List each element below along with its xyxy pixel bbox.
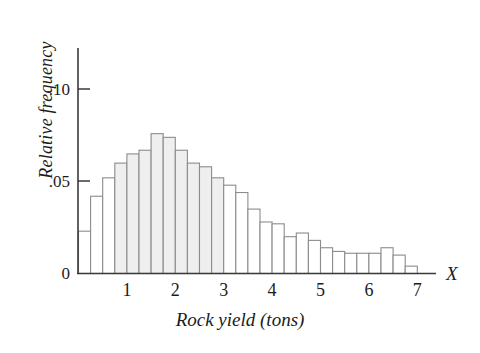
x-tick-label: 6: [349, 281, 389, 299]
x-axis-title: Rock yield (tons): [0, 310, 480, 329]
histogram-bar: [296, 233, 308, 273]
histogram-bar: [405, 266, 417, 273]
histogram-bar: [103, 178, 115, 274]
y-tick-label-010: .10: [32, 81, 70, 98]
histogram-bar: [139, 150, 151, 273]
histogram-bar: [308, 240, 320, 273]
x-tick-label: 3: [204, 281, 244, 299]
histogram-bar: [79, 231, 91, 273]
histogram-bar: [321, 248, 333, 274]
histogram-plot: [0, 0, 480, 353]
histogram-bar: [187, 163, 199, 273]
histogram-bar: [393, 255, 405, 273]
histogram-bar: [151, 134, 163, 274]
x-tick-label: 4: [252, 281, 292, 299]
x-axis-variable-label: X: [446, 264, 458, 283]
histogram-bar: [91, 196, 103, 273]
x-tick-label: 7: [397, 281, 437, 299]
histogram-bar: [163, 137, 175, 273]
y-tick-label-0: 0: [32, 265, 70, 282]
bars-group: [79, 134, 418, 274]
histogram-bar: [369, 253, 381, 273]
histogram-bar: [115, 163, 127, 273]
histogram-bar: [127, 154, 139, 274]
x-tick-label: 1: [107, 281, 147, 299]
histogram-bar: [236, 193, 248, 274]
histogram-bar: [248, 209, 260, 273]
x-tick-label: 5: [301, 281, 341, 299]
histogram-bar: [381, 248, 393, 274]
histogram-bar: [345, 253, 357, 273]
histogram-bar: [224, 185, 236, 273]
x-tick-label: 2: [155, 281, 195, 299]
histogram-bar: [357, 253, 369, 273]
y-axis-title-text: Relative frequency: [36, 41, 56, 178]
histogram-figure: Relative frequency .10 .05 0 1234567 X R…: [0, 0, 480, 353]
histogram-bar: [200, 167, 212, 274]
histogram-bar: [333, 251, 345, 273]
histogram-bar: [212, 178, 224, 274]
histogram-bar: [175, 150, 187, 273]
histogram-bar: [284, 237, 296, 274]
y-tick-label-005: .05: [32, 173, 70, 190]
histogram-bar: [260, 222, 272, 274]
histogram-bar: [272, 224, 284, 274]
